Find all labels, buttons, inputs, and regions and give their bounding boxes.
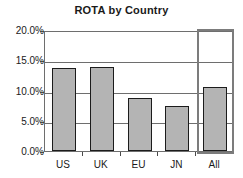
x-axis-tick-label: UK bbox=[94, 159, 108, 170]
x-axis-tick-mark bbox=[157, 152, 158, 156]
y-axis-tick-label: 5.0% bbox=[4, 116, 44, 127]
x-axis-tick-mark bbox=[195, 152, 196, 156]
x-axis-tick-label: US bbox=[56, 159, 70, 170]
y-axis-tick-label: 0.0% bbox=[4, 146, 44, 157]
y-axis-tick-label: 20.0% bbox=[4, 25, 44, 36]
y-axis: 0.0%5.0%10.0%15.0%20.0% bbox=[0, 0, 44, 178]
chart-container: ROTA by Country 0.0%5.0%10.0%15.0%20.0% … bbox=[0, 0, 243, 178]
x-axis-tick-label: All bbox=[209, 159, 220, 170]
x-axis-tick-label: JN bbox=[170, 159, 182, 170]
bar-uk bbox=[90, 67, 114, 151]
x-axis-tick-label: EU bbox=[132, 159, 146, 170]
bar-jn bbox=[165, 106, 189, 151]
plot-area bbox=[44, 31, 233, 152]
x-axis-tick-mark bbox=[120, 152, 121, 156]
bar-us bbox=[52, 68, 76, 151]
x-axis: USUKEUJNAll bbox=[44, 152, 233, 178]
bar-all bbox=[203, 87, 227, 151]
y-axis-tick-label: 15.0% bbox=[4, 55, 44, 66]
y-axis-tick-label: 10.0% bbox=[4, 86, 44, 97]
bar-eu bbox=[128, 98, 152, 151]
gridline bbox=[45, 62, 232, 63]
x-axis-tick-mark bbox=[82, 152, 83, 156]
